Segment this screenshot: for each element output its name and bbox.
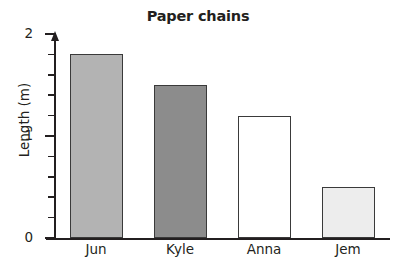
y-axis-minor-tick (48, 217, 55, 219)
y-axis-tick-label: 2 (24, 27, 33, 41)
x-axis-label-jem: Jem (335, 243, 360, 257)
bar-jem (322, 187, 375, 238)
y-axis-minor-tick (48, 176, 55, 178)
x-axis-label-jun: Jun (85, 243, 106, 257)
y-axis-minor-tick (48, 94, 55, 96)
y-axis-minor-tick (48, 54, 55, 56)
bar-jun (70, 54, 123, 238)
y-axis-label: Length (m) (16, 60, 32, 180)
y-axis-major-tick: 0 (45, 237, 56, 239)
x-axis-label-anna: Anna (247, 243, 282, 257)
y-axis-minor-tick (48, 196, 55, 198)
bar-chart: Paper chains Length (m) 012 JunKyleAnnaJ… (0, 0, 396, 276)
y-axis-minor-tick (48, 156, 55, 158)
y-axis-minor-tick (48, 115, 55, 117)
bar-kyle (154, 85, 207, 238)
chart-title: Paper chains (0, 8, 396, 24)
y-axis-tick-label: 0 (24, 231, 33, 245)
y-axis-minor-tick (48, 74, 55, 76)
x-axis-label-kyle: Kyle (166, 243, 194, 257)
y-axis-major-tick: 1 (45, 135, 56, 137)
plot-area: 012 (54, 26, 390, 240)
x-axis-line (46, 238, 390, 240)
y-axis-major-tick: 2 (45, 33, 56, 35)
y-axis-tick-label: 1 (24, 129, 33, 143)
bar-anna (238, 116, 291, 238)
